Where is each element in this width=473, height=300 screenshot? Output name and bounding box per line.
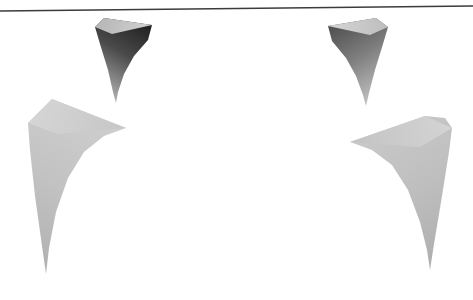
surface-figure-canvas bbox=[0, 0, 473, 300]
figure-root bbox=[0, 0, 473, 300]
